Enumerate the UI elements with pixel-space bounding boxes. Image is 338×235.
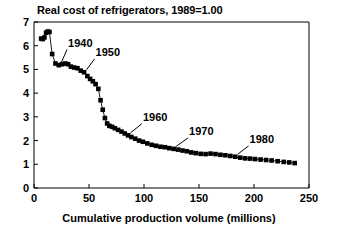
data-point-marker [275,159,280,164]
data-point-marker [98,98,103,103]
data-point-marker [145,141,150,146]
data-point-marker [158,144,163,149]
data-point-marker [292,161,297,166]
x-tick-label: 150 [190,192,208,204]
data-point-marker [287,160,292,165]
annotations: 19401950196019701980 [61,37,274,154]
data-point-marker [189,150,194,155]
data-point-marker [176,147,181,152]
data-point-marker [193,151,198,156]
data-point-marker [281,160,286,165]
data-point-marker [96,87,101,92]
data-point-marker [258,157,263,162]
y-tick-label: 3 [23,111,29,123]
y-tick-label: 5 [23,63,29,75]
annotation-leader-line [87,59,95,70]
data-point-marker [185,149,190,154]
data-point-marker [218,153,223,158]
x-tick-label: 250 [300,192,318,204]
data-point-marker [50,52,55,57]
annotation-label: 1940 [68,37,92,49]
x-tick-label: 200 [245,192,263,204]
data-point-marker [253,157,258,162]
y-tick-label: 2 [23,135,29,147]
annotation-leader-line [61,49,67,62]
data-point-marker [248,156,253,161]
annotation-label: 1960 [143,111,167,123]
chart-container: Real cost of refrigerators, 1989=1.00 01… [0,0,338,235]
data-point-marker [42,35,47,40]
data-point-marker [203,152,208,157]
data-point-marker [223,153,228,158]
x-tick-label: 100 [135,192,153,204]
annotation-leader-line [238,146,249,154]
data-point-marker [154,143,159,148]
data-point-marker [163,145,168,150]
annotation-leader-line [131,124,142,133]
data-point-marker [171,147,176,152]
x-tick-label: 0 [31,192,37,204]
y-tick-label: 6 [23,40,29,52]
data-point-marker [264,158,269,163]
x-tick-label: 50 [83,192,95,204]
annotation-label: 1950 [96,46,120,58]
data-point-marker [141,139,146,144]
data-point-marker [243,156,248,161]
y-tick-label: 0 [23,182,29,194]
data-point-marker [93,82,98,87]
data-point-marker [228,154,233,159]
annotation-leader-line [176,138,188,147]
y-tick-label: 4 [23,87,30,99]
data-point-marker [149,143,154,148]
annotation-label: 1970 [189,125,213,137]
y-tick-label: 7 [23,16,29,28]
data-point-marker [269,158,274,163]
chart-plot-area: 01234567050100150200250 1940195019601970… [0,0,338,235]
data-point-marker [238,155,243,160]
data-point-marker [208,151,213,156]
data-point-marker [198,152,203,157]
x-axis-title: Cumulative production volume (millions) [0,212,338,224]
data-point-marker [167,146,172,151]
data-point-marker [100,107,105,112]
data-point-marker [180,148,185,153]
data-point-marker [47,30,52,35]
data-point-marker [213,152,218,157]
annotation-label: 1980 [250,133,274,145]
y-tick-label: 1 [23,158,29,170]
data-point-marker [103,116,108,121]
data-point-marker [233,154,238,159]
